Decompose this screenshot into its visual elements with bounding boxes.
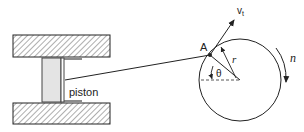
velocity-label: vt [237, 5, 244, 17]
cylinder-top-wall [13, 35, 110, 59]
piston-label: piston [69, 86, 98, 98]
radius-label: r [232, 53, 237, 65]
angle-label: θ [216, 68, 222, 79]
piston-crank-diagram: piston r A vt θ n [0, 0, 304, 132]
cylinder-bottom-wall [13, 101, 110, 124]
rotation-label: n [290, 51, 296, 65]
angle-arrow [211, 66, 213, 79]
connecting-rod [65, 55, 210, 80]
point-a-label: A [200, 41, 208, 53]
piston [42, 58, 64, 102]
